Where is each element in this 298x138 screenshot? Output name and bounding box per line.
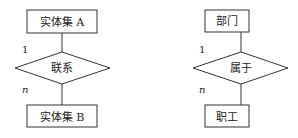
- cardinality-n: n: [22, 84, 28, 95]
- entity-b-label: 实体集 B: [40, 110, 85, 124]
- dept-label: 部门: [216, 14, 238, 28]
- entity-a-label: 实体集 A: [40, 15, 85, 29]
- staff-label: 职工: [216, 111, 238, 124]
- right-cardinality-1: 1: [199, 44, 205, 55]
- belongs-label: 属于: [230, 62, 252, 75]
- right-cardinality-n: n: [199, 84, 205, 95]
- relation-label: 联系: [51, 62, 73, 75]
- er-diagrams: 实体集 A 联系 实体集 B 1 n 部门 属于 职工 1 n: [0, 0, 298, 138]
- cardinality-1: 1: [22, 44, 28, 55]
